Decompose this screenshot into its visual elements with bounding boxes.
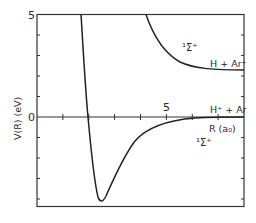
y-tick-label-0: 0 bbox=[28, 111, 35, 124]
upper-asymptote-label: H + Ar⁺ bbox=[210, 58, 247, 69]
x-axis-label: R (a₀) bbox=[209, 123, 236, 134]
x-tick-label-5: 5 bbox=[163, 101, 170, 114]
potential-energy-chart: 5 0 5 V(R) (eV) R (a₀) ¹Σ⁺ ¹Σ⁺ H + Ar⁺ H… bbox=[0, 0, 256, 223]
y-tick-label-5: 5 bbox=[28, 9, 35, 22]
upper-state-label: ¹Σ⁺ bbox=[182, 42, 198, 53]
lower-state-label: ¹Σ⁺ bbox=[196, 137, 212, 148]
y-axis-label: V(R) (eV) bbox=[12, 97, 23, 140]
lower-asymptote-label: H⁺ + Ar bbox=[210, 104, 247, 115]
